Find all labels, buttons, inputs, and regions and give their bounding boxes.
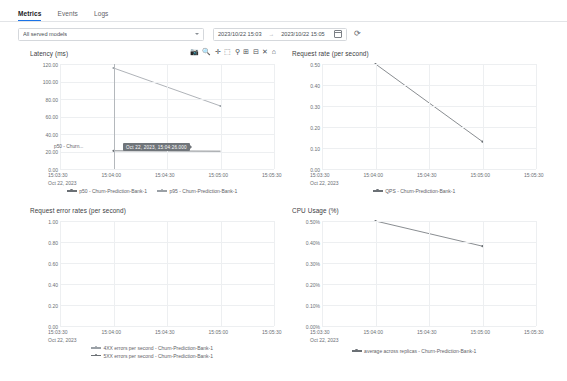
legend-label-cpu-average: average across replicas - Churn-Predicti… <box>364 348 476 354</box>
panel-latency-title: Latency (ms) <box>30 50 68 57</box>
request-rate-ytick-5: 0.50 <box>288 62 320 68</box>
box-select-icon[interactable]: ⬚ <box>224 48 231 55</box>
cpu-usage-xaxis-date: Oct 22, 2023 <box>310 337 339 343</box>
latency-plot-area[interactable]: p50 - Churn... Oct 22, 2023, 15:04:26.00… <box>60 64 274 169</box>
legend-item-p50[interactable]: p50 - Churn-Prediction-Bank-1 <box>67 188 147 194</box>
start-datetime-input[interactable]: 2023/10/22 15:03 <box>218 31 262 37</box>
legend-swatch-p95 <box>157 190 167 191</box>
request-error-rates-plot-area[interactable]: 1.00 0.80 0.60 0.40 0.20 0.00 15:03:30 1… <box>60 221 274 326</box>
cpu-usage-ytick-1: 0.10% <box>288 303 320 309</box>
request-error-rates-ytick-3: 0.60 <box>26 261 58 267</box>
cpu-usage-xtick-4: 15:05:30 <box>524 329 543 335</box>
latency-xtick-2: 15:04:30 <box>155 172 174 178</box>
chevron-down-icon <box>195 33 199 35</box>
zoom-out-icon[interactable]: ⊟ <box>253 48 259 55</box>
request-rate-xaxis-date: Oct 22, 2023 <box>310 180 339 186</box>
latency-xtick-0: 15:03:30 <box>48 172 67 178</box>
latency-ytick-5: 100.00 <box>26 79 58 85</box>
tab-events-label: Events <box>57 10 77 17</box>
latency-hover-tooltip: Oct 22, 2023, 15:04:26.000 <box>123 143 190 151</box>
legend-item-p95[interactable]: p95 - Churn-Prediction-Bank-1 <box>157 188 237 194</box>
request-rate-xtick-3: 15:05:00 <box>471 172 490 178</box>
download-plot-icon[interactable]: 📷 <box>190 48 199 55</box>
request-error-rates-legend: 4XX errors per second - Churn-Prediction… <box>26 345 278 359</box>
tab-logs-label: Logs <box>94 10 109 17</box>
request-rate-xtick-2: 15:04:30 <box>417 172 436 178</box>
cpu-usage-ytick-3: 0.30% <box>288 261 320 267</box>
request-rate-legend: QPS - Churn-Prediction-Bank-1 <box>288 188 540 194</box>
request-error-rates-ytick-2: 0.40 <box>26 282 58 288</box>
served-models-select-value: All served models <box>23 31 67 37</box>
cpu-usage-ytick-5: 0.50% <box>288 219 320 225</box>
request-error-rates-ytick-4: 0.80 <box>26 240 58 246</box>
panel-request-error-rates: Request error rates (per second) 1.00 0.… <box>26 205 278 370</box>
latency-xaxis-date: Oct 22, 2023 <box>48 180 77 186</box>
cpu-usage-ytick-2: 0.20% <box>288 282 320 288</box>
tab-metrics-label: Metrics <box>18 10 41 17</box>
cpu-usage-ytick-4: 0.40% <box>288 240 320 246</box>
legend-item-5xx[interactable]: 5XX errors per second - Churn-Prediction… <box>91 353 213 359</box>
latency-ytick-1: 20.00 <box>26 149 58 155</box>
cpu-usage-plot-area[interactable]: 0.50% 0.40% 0.30% 0.20% 0.10% 0.00% 15:0… <box>322 221 536 326</box>
tab-events[interactable]: Events <box>57 10 83 21</box>
latency-ytick-4: 80.00 <box>26 97 58 103</box>
legend-label-p95: p95 - Churn-Prediction-Bank-1 <box>170 188 238 194</box>
legend-swatch-5xx <box>91 355 101 356</box>
served-models-select[interactable]: All served models <box>18 28 204 41</box>
request-rate-plot-area[interactable]: 0.50 0.40 0.30 0.20 0.10 0.00 15:03:30 1… <box>322 64 536 169</box>
range-arrow-icon: → <box>269 31 275 37</box>
latency-xtick-3: 15:05:00 <box>209 172 228 178</box>
latency-xtick-1: 15:04:00 <box>102 172 121 178</box>
filter-bar: All served models 2023/10/22 15:03 → 202… <box>0 22 567 46</box>
refresh-icon[interactable]: ⟳ <box>354 30 361 38</box>
tab-logs[interactable]: Logs <box>94 10 115 21</box>
panel-latency: Latency (ms) 📷 🔍 ✛ ⬚ ⚲ ⊞ ⊟ ✕ ⌂ <box>26 48 278 203</box>
date-range-picker[interactable]: 2023/10/22 15:03 → 2023/10/22 15:05 <box>213 28 347 41</box>
top-tabbar: Metrics Events Logs <box>0 0 567 22</box>
legend-swatch-4xx <box>91 347 101 348</box>
latency-xtick-4: 15:05:30 <box>262 172 281 178</box>
panel-request-rate-title: Request rate (per second) <box>292 50 369 57</box>
latency-hover-cursor <box>114 64 115 169</box>
request-error-rates-xtick-4: 15:05:30 <box>262 329 281 335</box>
zoom-in-icon[interactable]: ⊞ <box>243 48 249 55</box>
legend-swatch-p50 <box>67 190 77 191</box>
request-error-rates-ytick-1: 0.20 <box>26 303 58 309</box>
end-datetime-input[interactable]: 2023/10/22 15:05 <box>281 31 325 37</box>
request-rate-xtick-4: 15:05:30 <box>524 172 543 178</box>
latency-modebar: 📷 🔍 ✛ ⬚ ⚲ ⊞ ⊟ ✕ ⌂ <box>190 48 276 55</box>
request-rate-xtick-1: 15:04:00 <box>364 172 383 178</box>
legend-item-qps[interactable]: QPS - Churn-Prediction-Bank-1 <box>373 188 456 194</box>
panel-request-rate: Request rate (per second) 0.50 0.40 0.30… <box>288 48 540 203</box>
request-error-rates-xtick-2: 15:04:30 <box>155 329 174 335</box>
legend-label-p50: p50 - Churn-Prediction-Bank-1 <box>79 188 147 194</box>
request-rate-ytick-2: 0.20 <box>288 125 320 131</box>
latency-legend: p50 - Churn-Prediction-Bank-1 p95 - Chur… <box>26 188 278 194</box>
request-error-rates-xaxis-date: Oct 22, 2023 <box>48 337 77 343</box>
request-error-rates-ytick-5: 1.00 <box>26 219 58 225</box>
tab-metrics[interactable]: Metrics <box>18 10 47 21</box>
pan-icon[interactable]: ✛ <box>215 48 221 55</box>
legend-item-4xx[interactable]: 4XX errors per second - Churn-Prediction… <box>91 345 213 351</box>
legend-label-4xx: 4XX errors per second - Churn-Prediction… <box>104 345 214 351</box>
panel-request-error-rates-title: Request error rates (per second) <box>30 207 126 214</box>
legend-swatch-qps <box>373 190 383 191</box>
reset-axes-icon[interactable]: ⌂ <box>272 48 276 55</box>
latency-ytick-3: 60.00 <box>26 114 58 120</box>
legend-item-cpu-average[interactable]: average across replicas - Churn-Predicti… <box>352 348 477 354</box>
request-rate-ytick-1: 0.10 <box>288 146 320 152</box>
latency-ytick-6: 120.00 <box>26 62 58 68</box>
request-error-rates-xtick-1: 15:04:00 <box>102 329 121 335</box>
legend-label-qps: QPS - Churn-Prediction-Bank-1 <box>385 188 455 194</box>
autoscale-icon[interactable]: ✕ <box>262 48 268 55</box>
cpu-usage-xtick-0: 15:03:30 <box>310 329 329 335</box>
legend-swatch-cpu-average <box>352 350 362 351</box>
lasso-select-icon[interactable]: ⚲ <box>235 48 240 55</box>
cpu-usage-xtick-1: 15:04:00 <box>364 329 383 335</box>
calendar-icon[interactable] <box>334 30 342 38</box>
request-rate-ytick-3: 0.30 <box>288 104 320 110</box>
legend-label-5xx: 5XX errors per second - Churn-Prediction… <box>104 353 214 359</box>
zoom-icon[interactable]: 🔍 <box>202 48 211 55</box>
panel-cpu-usage: CPU Usage (%) 0.50% 0.40% 0.30% 0.20% 0.… <box>288 205 540 370</box>
request-rate-ytick-4: 0.40 <box>288 83 320 89</box>
